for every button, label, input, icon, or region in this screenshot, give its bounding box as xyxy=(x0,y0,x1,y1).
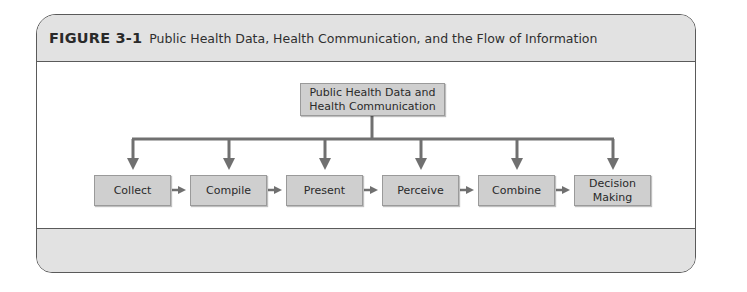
root-node-line1: Public Health Data and xyxy=(309,86,435,100)
step-decision-making: Decision Making xyxy=(574,175,651,206)
step-compile: Compile xyxy=(190,175,267,206)
step-perceive: Perceive xyxy=(382,175,459,206)
step-label-line2: Making xyxy=(589,191,636,205)
step-label: Compile xyxy=(206,184,251,198)
step-label: Collect xyxy=(114,184,152,198)
root-node-line2: Health Communication xyxy=(309,100,435,114)
step-present: Present xyxy=(286,175,363,206)
connector-arrows xyxy=(0,0,747,292)
step-combine: Combine xyxy=(478,175,555,206)
step-label-line1: Decision xyxy=(589,177,636,191)
step-label: Combine xyxy=(492,184,541,198)
root-node: Public Health Data and Health Communicat… xyxy=(300,83,445,116)
step-collect: Collect xyxy=(94,175,171,206)
step-label: Present xyxy=(304,184,345,198)
step-label: Perceive xyxy=(397,184,443,198)
